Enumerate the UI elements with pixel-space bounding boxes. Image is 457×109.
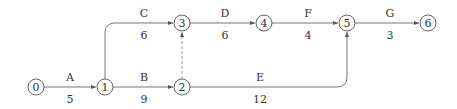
activity-e-duration: 12 [253, 93, 267, 106]
activity-b-duration: 9 [141, 93, 148, 106]
activity-d-duration: 6 [222, 29, 229, 42]
event-node-label: 0 [33, 81, 40, 94]
event-node-label: 1 [102, 81, 109, 94]
event-node-3: 3 [174, 15, 190, 31]
event-node-5: 5 [339, 15, 355, 31]
event-node-label: 5 [344, 17, 351, 30]
activity-d-name: D [221, 7, 230, 20]
network-diagram: A 5 B 9 C 6 D 6 E 12 F 4 G 3 0 1 2 3 [0, 0, 457, 109]
activity-g-duration: 3 [387, 29, 394, 42]
event-node-6: 6 [420, 15, 436, 31]
event-node-label: 2 [179, 81, 186, 94]
event-node-label: 6 [425, 17, 432, 30]
event-node-1: 1 [97, 79, 113, 95]
edges [44, 23, 419, 87]
activity-b-name: B [140, 71, 148, 84]
activity-a-duration: 5 [67, 93, 74, 106]
nodes: 0 1 2 3 4 5 6 [28, 15, 436, 95]
event-node-4: 4 [256, 15, 272, 31]
activity-e-name: E [256, 71, 264, 84]
event-node-label: 4 [261, 17, 268, 30]
activity-f-name: F [304, 7, 312, 20]
activity-c-duration: 6 [141, 29, 148, 42]
activity-e-arrow [190, 32, 347, 87]
activity-c-name: C [140, 7, 148, 20]
event-node-0: 0 [28, 79, 44, 95]
activity-f-duration: 4 [305, 29, 312, 42]
activity-a-name: A [65, 71, 75, 84]
activity-g-name: G [386, 7, 395, 20]
event-node-2: 2 [174, 79, 190, 95]
event-node-label: 3 [179, 17, 186, 30]
